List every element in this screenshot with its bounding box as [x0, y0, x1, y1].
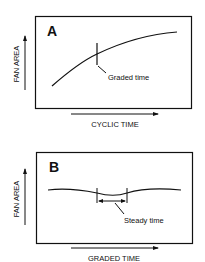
panel-b: B Steady time FAN AREA GRADED TIME [12, 153, 193, 262]
panel-a-letter: A [47, 23, 57, 39]
panel-b-y-axis-label: FAN AREA [12, 181, 21, 218]
panel-b-x-axis-label: GRADED TIME [88, 254, 140, 262]
steady-time-label: Steady time [124, 216, 164, 225]
panel-a-y-axis-label: FAN AREA [12, 46, 21, 83]
panel-b-curve [48, 189, 181, 195]
panel-a: A Graded time FAN AREA CYCLIC TIME [12, 17, 192, 130]
diagram-canvas: A Graded time FAN AREA CYCLIC TIME B Ste… [0, 0, 205, 262]
panel-b-frame [37, 153, 193, 244]
graded-time-leader [98, 66, 106, 73]
panel-a-x-axis-label: CYCLIC TIME [91, 120, 138, 129]
steady-time-leader [115, 203, 124, 214]
panel-a-frame [36, 17, 192, 109]
panel-b-letter: B [49, 159, 59, 175]
graded-time-label: Graded time [108, 73, 149, 82]
